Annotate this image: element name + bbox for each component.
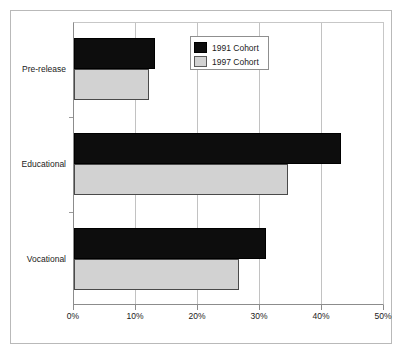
chart-legend: 1991 Cohort 1997 Cohort: [190, 36, 269, 70]
x-axis-label-30: 30%: [239, 311, 279, 321]
legend-label: 1991 Cohort: [212, 43, 259, 53]
legend-label: 1997 Cohort: [212, 57, 259, 67]
bar-vocational-1991-cohort: [74, 228, 266, 259]
x-axis-tick-0: [73, 305, 74, 310]
bar-educational-1997-cohort: [74, 164, 288, 195]
category-label-text: Pre-release: [22, 64, 66, 74]
x-axis-tick-40: [321, 305, 322, 310]
y-axis-tick: [69, 117, 73, 118]
legend-swatch-icon: [194, 42, 207, 53]
x-axis-label-20: 20%: [177, 311, 217, 321]
category-label-text: Educational: [22, 159, 66, 169]
x-axis-tick-10: [135, 305, 136, 310]
bar-pre-release-1997-cohort: [74, 69, 149, 100]
x-axis-tick-20: [197, 305, 198, 310]
bar-educational-1991-cohort: [74, 133, 341, 164]
bar-pre-release-1991-cohort: [74, 38, 155, 69]
legend-entry-1991-cohort: 1991 Cohort: [194, 41, 265, 54]
bar-vocational-1997-cohort: [74, 259, 239, 290]
x-axis-tick-50: [383, 305, 384, 310]
y-axis-tick: [69, 212, 73, 213]
x-axis-label-40: 40%: [301, 311, 341, 321]
bar-chart-figure: Pre-release Educational Vocational 0% 10…: [0, 0, 403, 356]
legend-entry-1997-cohort: 1997 Cohort: [194, 55, 265, 68]
x-axis-label-50: 50%: [363, 311, 403, 321]
legend-swatch-icon: [194, 56, 207, 67]
x-axis-label-0: 0%: [53, 311, 93, 321]
category-label-text: Vocational: [27, 254, 66, 264]
x-axis-label-10: 10%: [115, 311, 155, 321]
x-axis-tick-30: [259, 305, 260, 310]
